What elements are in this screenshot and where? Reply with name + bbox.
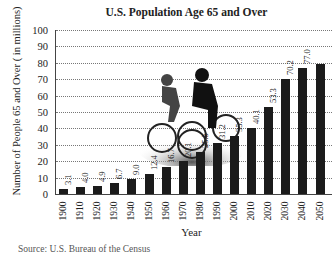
bar-1990: [213, 143, 222, 194]
value-label: 25.5: [200, 133, 210, 148]
y-tick-label: 40: [18, 123, 48, 134]
gridline: [56, 30, 332, 31]
value-label: 16.7: [166, 148, 176, 163]
x-axis-title: Year: [0, 226, 333, 238]
bar-1930: [110, 183, 119, 194]
value-label: 40.1: [251, 109, 261, 124]
bar-1980: [196, 152, 205, 194]
x-tick-label: 1990: [212, 199, 222, 223]
bar-1910: [76, 187, 85, 194]
bar-1940: [127, 179, 136, 194]
bar-2020: [264, 107, 273, 194]
value-label: 12.4: [149, 155, 159, 170]
y-tick-label: 50: [18, 107, 48, 118]
x-tick-label: 2010: [246, 199, 256, 223]
value-label: 4.0: [80, 173, 90, 184]
y-tick-label: 0: [18, 189, 48, 200]
bar-2000: [230, 136, 239, 194]
value-label: 70.2: [285, 60, 295, 75]
value-label: 4.9: [97, 171, 107, 182]
x-tick-label: 1980: [195, 199, 205, 223]
value-label: 35.3: [234, 117, 244, 132]
x-tick-label: 1900: [58, 199, 68, 223]
value-label: 31.2: [217, 124, 227, 139]
x-tick-label: 1950: [144, 199, 154, 223]
x-tick-label: 2050: [315, 199, 325, 223]
bar-1960: [162, 167, 171, 194]
value-label: 9.0: [131, 165, 141, 176]
y-tick-label: 20: [18, 156, 48, 167]
source-note: Source: U.S. Bureau of the Census: [18, 244, 150, 254]
y-tick-label: 10: [18, 172, 48, 183]
x-tick-label: 2020: [263, 199, 273, 223]
chart-title: U.S. Population Age 65 and Over: [0, 6, 333, 18]
y-tick-label: 70: [18, 74, 48, 85]
y-tick-label: 80: [18, 57, 48, 68]
y-tick-label: 30: [18, 139, 48, 150]
y-tick-label: 90: [18, 41, 48, 52]
x-tick-label: 2040: [297, 199, 307, 223]
gridline: [56, 46, 332, 47]
x-tick-label: 1940: [126, 199, 136, 223]
value-label: 3.1: [63, 174, 73, 185]
y-tick-label: 60: [18, 90, 48, 101]
bar-1920: [93, 186, 102, 194]
x-tick-label: 1920: [92, 199, 102, 223]
bar-1900: [59, 189, 68, 194]
x-tick-label: 2030: [280, 199, 290, 223]
value-label: 6.7: [114, 168, 124, 179]
x-tick-label: 1970: [178, 199, 188, 223]
bar-2010: [247, 128, 256, 194]
x-tick-label: 1930: [109, 199, 119, 223]
plot-area: 3.14.04.96.79.012.416.720.125.531.235.34…: [55, 30, 332, 195]
value-label: 20.1: [183, 142, 193, 157]
bar-2050: [316, 64, 325, 194]
bar-1950: [145, 174, 154, 194]
value-label: 53.3: [268, 88, 278, 103]
bar-1970: [179, 161, 188, 194]
y-tick-label: 100: [18, 25, 48, 36]
value-label: 77.0: [302, 49, 312, 64]
x-tick-label: 2000: [229, 199, 239, 223]
bar-2040: [298, 68, 307, 194]
x-tick-label: 1960: [161, 199, 171, 223]
bar-2030: [281, 79, 290, 194]
x-tick-label: 1910: [75, 199, 85, 223]
